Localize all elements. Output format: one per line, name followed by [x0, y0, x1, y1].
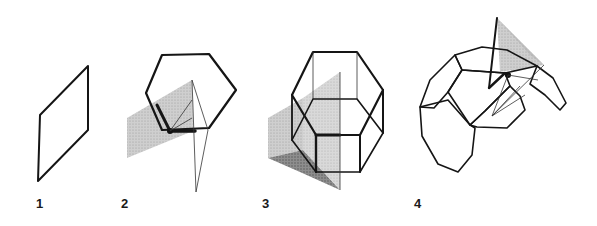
panel-1-rhombus: [38, 66, 88, 181]
panel-label-4: 4: [414, 196, 421, 211]
panel-label-3: 3: [262, 196, 269, 211]
panel-4-shell: [420, 18, 566, 172]
figure-canvas: [0, 0, 597, 226]
panel-2-hexagon-plane: [127, 54, 236, 192]
panel-label-2: 2: [121, 196, 128, 211]
panel-label-1: 1: [36, 196, 43, 211]
panel-3-prism: [268, 52, 383, 190]
